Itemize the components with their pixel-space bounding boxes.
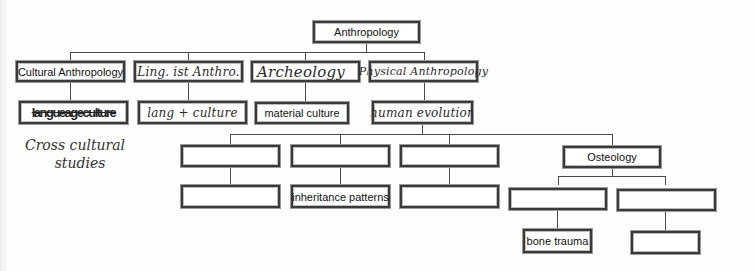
handwritten-label: Physical Anthropology	[359, 65, 488, 78]
connector	[665, 176, 666, 185]
node-inheritance-patterns: inheritance patterns	[291, 185, 390, 208]
connector	[340, 167, 341, 185]
node-osteology: Osteology	[563, 146, 661, 168]
node-label: Anthropology	[334, 26, 399, 38]
note-line: Cross cultural	[20, 136, 130, 154]
connector	[557, 208, 558, 230]
node-label: Cultural Anthropology	[18, 66, 123, 78]
node-empty	[509, 188, 607, 210]
node-empty	[291, 145, 390, 167]
node-lang-culture: lang + culture	[138, 101, 247, 124]
handwritten-label: human evolution	[370, 106, 475, 120]
node-empty	[400, 145, 499, 167]
connector	[230, 167, 231, 185]
node-label: bone trauma	[527, 235, 589, 247]
node-scribbled-out: langueageculture	[19, 101, 128, 124]
connector	[305, 52, 306, 61]
connector	[449, 134, 450, 145]
connector	[230, 134, 613, 135]
handwritten-label: lang + culture	[147, 106, 238, 120]
node-linguistic-anthropology: Ling. ist Anthro.	[134, 61, 243, 82]
connector	[424, 52, 425, 61]
node-bone-trauma: bone trauma	[523, 229, 592, 253]
node-material-culture: material culture	[255, 102, 349, 124]
node-empty	[181, 185, 280, 208]
node-physical-anthropology: Physical Anthropology	[369, 61, 478, 82]
connector	[305, 82, 306, 101]
node-cultural-anthropology: Cultural Anthropology	[16, 61, 125, 82]
connector	[188, 82, 189, 101]
connector	[70, 52, 71, 61]
node-empty	[617, 189, 716, 211]
handwritten-label: Ling. ist Anthro.	[137, 65, 239, 79]
scan-edge	[0, 0, 8, 271]
node-human-evolution: human evolution	[372, 101, 473, 124]
node-label: inheritance patterns	[292, 191, 389, 203]
connector	[70, 52, 425, 53]
node-anthropology: Anthropology	[313, 21, 420, 43]
connector	[424, 82, 425, 101]
node-empty	[181, 145, 280, 167]
connector	[230, 134, 231, 145]
handwritten-note: Cross cultural studies	[20, 136, 130, 172]
node-empty	[400, 185, 499, 208]
connector	[612, 134, 613, 145]
node-empty	[631, 231, 700, 254]
handwritten-label: Archeology	[257, 63, 345, 81]
connector	[449, 167, 450, 185]
node-label: Osteology	[587, 151, 637, 163]
connector	[188, 52, 189, 61]
scribbled-label: langueageculture	[32, 105, 116, 120]
connector	[70, 82, 71, 101]
connector	[340, 134, 341, 145]
connector	[366, 43, 367, 52]
connector	[558, 176, 559, 185]
node-archeology: Archeology	[251, 61, 360, 82]
connector	[665, 208, 666, 230]
connector	[422, 124, 423, 134]
note-line: studies	[20, 154, 130, 172]
node-label: material culture	[264, 107, 339, 119]
connector	[612, 167, 613, 176]
connector	[558, 176, 666, 177]
